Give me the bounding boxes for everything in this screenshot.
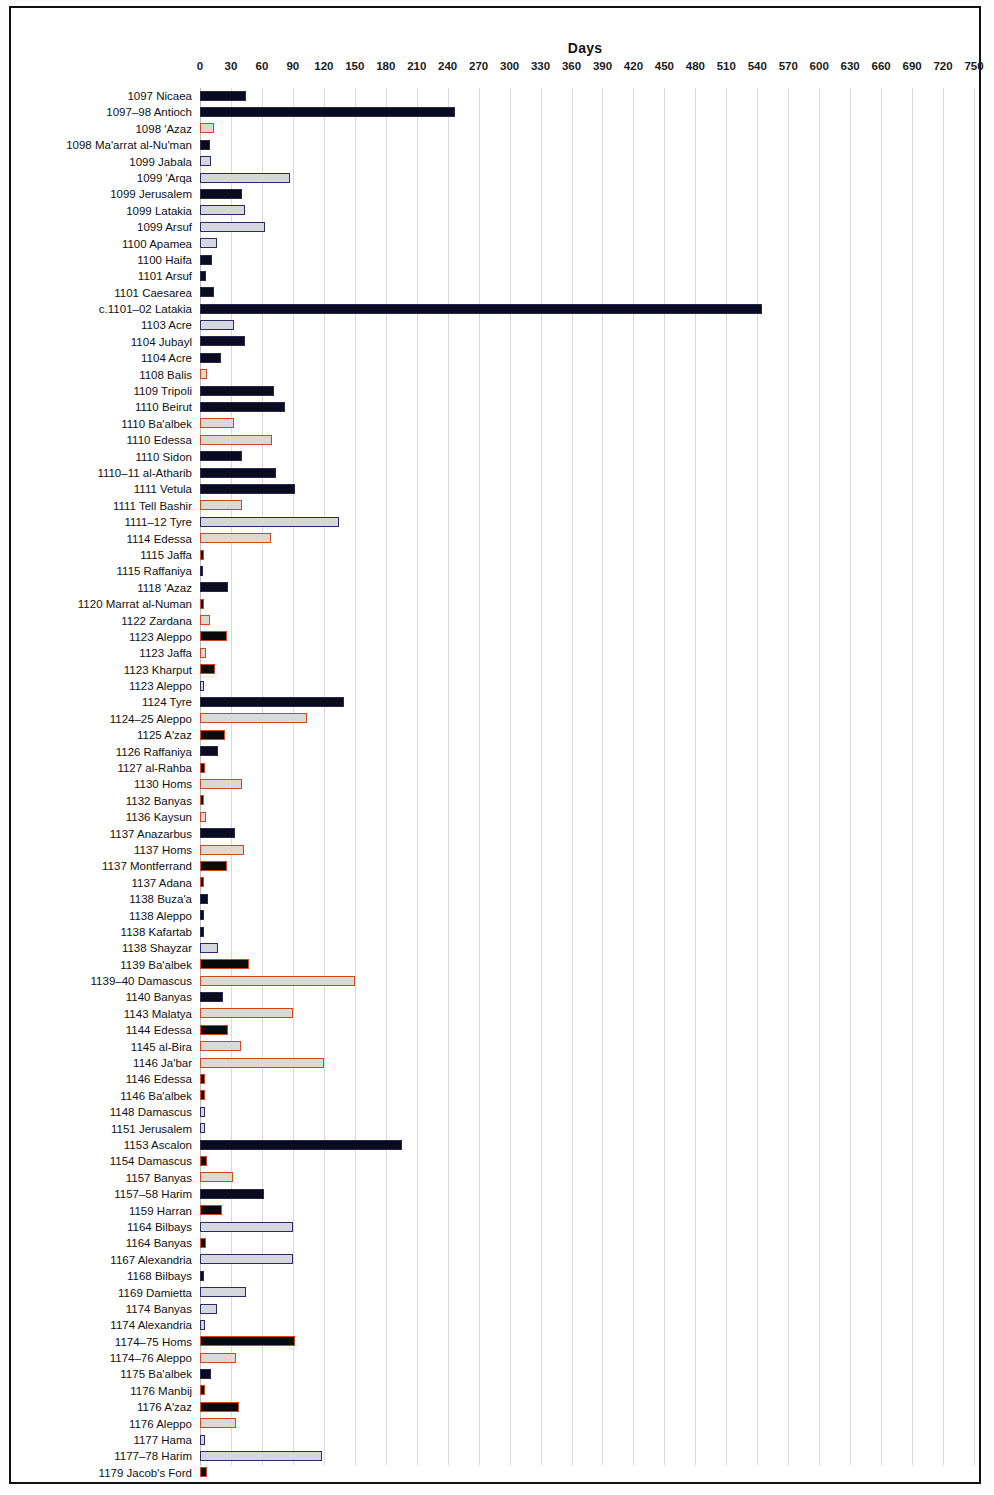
- bar-row: 1120 Marrat al-Numan: [200, 596, 974, 612]
- bar: [200, 861, 227, 871]
- category-label: 1108 Balis: [139, 367, 192, 383]
- category-label: 1101 Arsuf: [138, 268, 192, 284]
- bar: [200, 1205, 222, 1215]
- bar: [200, 730, 225, 740]
- category-label: 1115 Raffaniya: [117, 563, 192, 579]
- category-label: 1151 Jerusalem: [111, 1121, 192, 1137]
- x-tick-label: 30: [225, 60, 238, 72]
- category-label: 1099 'Arqa: [137, 170, 192, 186]
- bar-row: 1110 Sidon: [200, 449, 974, 465]
- bar-row: 1176 Aleppo: [200, 1416, 974, 1432]
- bar: [200, 1041, 241, 1051]
- category-label: 1138 Aleppo: [129, 908, 192, 924]
- bar: [200, 713, 307, 723]
- bar: [200, 1107, 205, 1117]
- bar-row: 1100 Haifa: [200, 252, 974, 268]
- bar: [200, 992, 223, 1002]
- category-label: 1123 Jaffa: [139, 645, 192, 661]
- bar: [200, 402, 285, 412]
- x-tick-label: 570: [779, 60, 798, 72]
- bar-row: 1136 Kaysun: [200, 809, 974, 825]
- bar-row: 1138 Buza'a: [200, 891, 974, 907]
- bar: [200, 812, 206, 822]
- category-label: 1130 Homs: [134, 776, 192, 792]
- bar-row: 1177–78 Harim: [200, 1448, 974, 1464]
- bar-row: 1151 Jerusalem: [200, 1121, 974, 1137]
- category-label: 1103 Acre: [141, 317, 192, 333]
- bar-row: 1143 Malatya: [200, 1006, 974, 1022]
- bar-row: 1179 Jacob's Ford: [200, 1465, 974, 1481]
- bar-row: 1175 Ba'albek: [200, 1366, 974, 1382]
- category-label: 1118 'Azaz: [137, 580, 192, 596]
- bar: [200, 1451, 322, 1461]
- category-label: 1168 Bilbays: [127, 1268, 192, 1284]
- x-tick-label: 660: [872, 60, 891, 72]
- bar-row: 1137 Montferrand: [200, 858, 974, 874]
- category-label: 1176 Aleppo: [129, 1416, 192, 1432]
- category-label: 1099 Jerusalem: [110, 186, 192, 202]
- bar: [200, 1189, 264, 1199]
- bar-row: 1111–12 Tyre: [200, 514, 974, 530]
- category-label: 1177–78 Harim: [114, 1448, 192, 1464]
- category-label: 1164 Banyas: [126, 1235, 192, 1251]
- category-label: 1126 Raffaniya: [116, 744, 192, 760]
- bar-row: 1164 Banyas: [200, 1235, 974, 1251]
- bar-row: c.1101–02 Latakia: [200, 301, 974, 317]
- bar: [200, 894, 208, 904]
- category-label: 1146 Ba'albek: [120, 1088, 192, 1104]
- bar-row: 1108 Balis: [200, 367, 974, 383]
- bar: [200, 533, 271, 543]
- category-label: 1174–75 Homs: [115, 1334, 192, 1350]
- bar: [200, 1156, 207, 1166]
- bar: [200, 468, 276, 478]
- x-tick-label: 480: [686, 60, 705, 72]
- category-label: 1111 Tell Bashir: [113, 498, 192, 514]
- bar-row: 1157 Banyas: [200, 1170, 974, 1186]
- category-label: 1174–76 Aleppo: [110, 1350, 192, 1366]
- bar-row: 1130 Homs: [200, 776, 974, 792]
- x-tick-label: 510: [717, 60, 736, 72]
- category-label: 1098 Ma'arrat al-Nu'man: [66, 137, 192, 153]
- category-label: 1157 Banyas: [126, 1170, 192, 1186]
- category-label: 1137 Anazarbus: [110, 826, 192, 842]
- bar-row: 1139–40 Damascus: [200, 973, 974, 989]
- x-tick-label: 300: [500, 60, 519, 72]
- x-tick-label: 150: [345, 60, 364, 72]
- bar-row: 1123 Jaffa: [200, 645, 974, 661]
- bar-row: 1114 Edessa: [200, 531, 974, 547]
- bar: [200, 451, 242, 461]
- bar-row: 1176 Manbij: [200, 1383, 974, 1399]
- bar: [200, 1238, 206, 1248]
- category-label: 1099 Jabala: [129, 154, 192, 170]
- category-label: 1110 Sidon: [136, 449, 192, 465]
- figure-frame: Days 03060901201501802102402703003303603…: [9, 6, 981, 1484]
- category-label: 1104 Acre: [141, 350, 192, 366]
- category-label: 1111 Vetula: [134, 481, 192, 497]
- gridline: [974, 88, 975, 1465]
- bar: [200, 1369, 211, 1379]
- bar: [200, 566, 203, 576]
- bar: [200, 484, 295, 494]
- bar-row: 1137 Anazarbus: [200, 826, 974, 842]
- bar: [200, 943, 218, 953]
- bar: [200, 1271, 204, 1281]
- category-label: 1146 Edessa: [126, 1071, 192, 1087]
- category-label: 1125 A'zaz: [137, 727, 192, 743]
- bar: [200, 1287, 246, 1297]
- bar: [200, 927, 204, 937]
- bar-row: 1174–76 Aleppo: [200, 1350, 974, 1366]
- x-tick-label: 90: [286, 60, 299, 72]
- bar-row: 1174–75 Homs: [200, 1334, 974, 1350]
- category-label: 1153 Ascalon: [124, 1137, 192, 1153]
- bar-row: 1123 Aleppo: [200, 678, 974, 694]
- bar: [200, 795, 204, 805]
- x-tick-label: 600: [810, 60, 829, 72]
- bar-row: 1140 Banyas: [200, 989, 974, 1005]
- bar: [200, 500, 242, 510]
- figure-canvas: Days 03060901201501802102402703003303603…: [0, 0, 994, 1495]
- category-label: 1143 Malatya: [124, 1006, 192, 1022]
- bar-row: 1157–58 Harim: [200, 1186, 974, 1202]
- bar: [200, 664, 215, 674]
- category-label: 1109 Tripoli: [133, 383, 192, 399]
- category-label: 1100 Apamea: [122, 236, 192, 252]
